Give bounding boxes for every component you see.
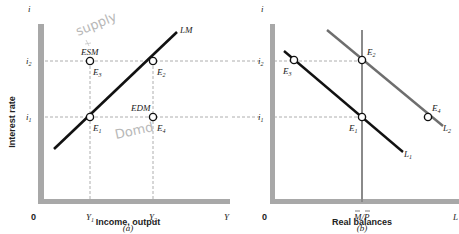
- edm-label: EDM: [130, 103, 151, 113]
- e3-label: E3: [282, 66, 292, 77]
- is-lm-diagram: supply i i2 i1 Interest rate 0 Y1 Y2 Y I…: [0, 0, 459, 234]
- y1-tick-label: Y1: [86, 212, 94, 223]
- point-e1: [86, 113, 93, 120]
- y-axis-symbol: i: [28, 4, 31, 14]
- x-axis: [270, 199, 459, 204]
- l2-label: L2: [442, 123, 451, 134]
- origin-label: 0: [262, 212, 267, 222]
- y-axis-symbol: i: [261, 4, 264, 14]
- e3-label: E3: [92, 67, 102, 78]
- point-e1: [358, 113, 365, 120]
- i1-tick-label: i1: [26, 112, 32, 123]
- x-axis: [38, 199, 230, 204]
- esm-label: ESM: [80, 47, 99, 57]
- panel-a-caption: (a): [123, 223, 134, 233]
- l1-label: L1: [403, 149, 412, 160]
- e1-label: E1: [92, 123, 102, 134]
- lm-label: LM: [179, 25, 193, 35]
- panel-a: supply i i2 i1 Interest rate 0 Y1 Y2 Y I…: [7, 4, 230, 233]
- x-axis-symbol: L: [452, 212, 458, 222]
- x-axis-symbol: Y: [224, 212, 230, 222]
- origin-label: 0: [31, 212, 36, 222]
- handwritten-supply: supply: [74, 9, 120, 39]
- panel-b-caption: (b): [357, 223, 368, 233]
- l1-curve: [284, 51, 403, 152]
- y-axis: [270, 24, 275, 204]
- point-e4: [424, 113, 431, 120]
- handwritten-mark: [85, 40, 91, 46]
- handwritten-demand: Domd: [114, 119, 155, 142]
- y-axis-label: Interest rate: [7, 96, 17, 148]
- e4-label: E4: [156, 123, 166, 134]
- e2-label: E2: [366, 47, 376, 58]
- point-e2: [358, 56, 365, 63]
- y-axis: [38, 24, 44, 204]
- point-e3: [86, 57, 93, 64]
- e4-label: E4: [431, 103, 441, 114]
- e2-label: E2: [156, 67, 166, 78]
- l2-curve: [327, 30, 443, 126]
- i2-tick-label: i2: [258, 56, 264, 67]
- point-e3: [290, 56, 297, 63]
- i1-tick-label: i1: [258, 112, 264, 123]
- point-e2: [149, 57, 156, 64]
- i2-tick-label: i2: [26, 56, 32, 67]
- e1-label: E1: [348, 123, 358, 134]
- panel-b: i i2 i1 0 M/P L Real balances (b) E3 E2 …: [232, 4, 459, 233]
